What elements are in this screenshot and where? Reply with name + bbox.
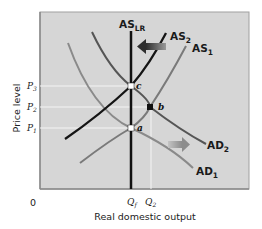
point-a-label: a [137,123,143,133]
y-tick-p1: P1 [26,123,37,134]
origin-label: 0 [30,197,36,208]
point-b-label: b [158,102,164,112]
plot-area [40,12,249,189]
y-tick-p3: P3 [26,81,37,92]
y-axis-label: Price level [11,84,22,133]
point-a-marker [128,125,134,131]
x-tick-qf: Qf [127,197,138,209]
x-axis-label: Real domestic output [94,211,196,222]
x-tick-q2: Q2 [145,197,156,208]
ad-as-diagram: c b a ASLR AS2 AS1 AD2 AD1 P3 P2 P1 Pric… [0,0,262,229]
point-c-marker [128,83,134,89]
y-tick-p2: P2 [26,102,37,113]
point-b-marker [147,104,153,110]
point-c-label: c [136,81,142,91]
